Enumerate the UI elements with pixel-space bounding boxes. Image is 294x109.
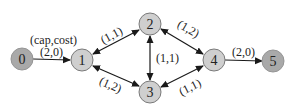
diagram-svg: (cap,cost) (2,0) (1,1) (1,2) (1,1) (1,2)…	[0, 0, 294, 109]
node-5-label: 5	[270, 54, 277, 69]
node-1: 1	[71, 49, 93, 71]
edge-label-0-1: (2,0)	[40, 45, 63, 59]
node-0: 0	[11, 48, 33, 70]
node-2-label: 2	[147, 17, 154, 32]
node-4-label: 4	[211, 53, 218, 68]
node-3-label: 3	[147, 85, 154, 100]
edge-label-3-4: (1,1)	[177, 76, 204, 99]
node-5: 5	[262, 50, 284, 72]
edge-label-1-2: (1,1)	[98, 24, 125, 47]
edge-label-2-4: (1,2)	[175, 17, 202, 41]
node-2: 2	[139, 13, 161, 35]
node-1-label: 1	[79, 53, 86, 68]
flow-network-diagram: (cap,cost) (2,0) (1,1) (1,2) (1,1) (1,2)…	[0, 0, 294, 109]
edge-label-4-5: (2,0)	[232, 45, 255, 59]
node-4: 4	[203, 49, 225, 71]
edge-label-2-3: (1,1)	[156, 51, 179, 65]
edge-0-1	[33, 59, 70, 60]
node-3: 3	[139, 81, 161, 103]
edge-4-5	[225, 60, 262, 61]
node-0-label: 0	[19, 52, 26, 67]
